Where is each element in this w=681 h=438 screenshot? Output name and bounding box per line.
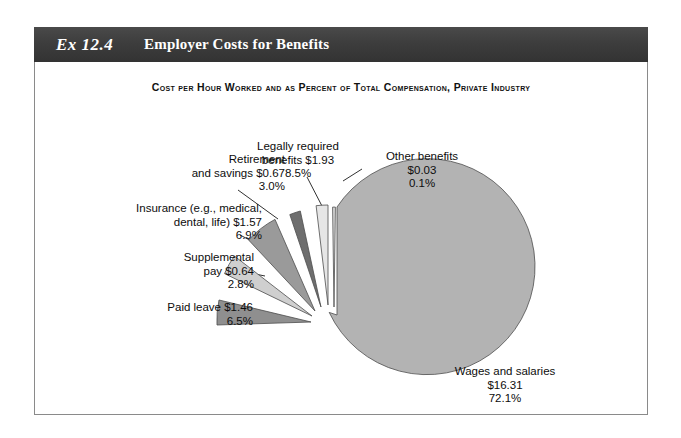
exhibit-body-panel: Cost per Hour Worked and as Percent of T… (34, 62, 648, 415)
callout-legally-required-benefits: Legally required benefits $1.93 8.5% (242, 140, 354, 181)
callout-insurance: Insurance (e.g., medical, dental, life) … (97, 202, 262, 243)
leader-line-legally (307, 177, 323, 208)
pie-slice-wages-and-salaries[interactable] (329, 159, 535, 375)
callout-other-benefits: Other benefits $0.03 0.1% (363, 150, 481, 191)
exhibit-number: Ex 12.4 (56, 35, 113, 55)
exhibit-title: Employer Costs for Benefits (144, 36, 329, 53)
callout-supplemental-pay: Supplemental pay $0.64 2.8% (117, 251, 254, 292)
exhibit-title-bar: Ex 12.4 Employer Costs for Benefits (34, 27, 648, 62)
pie-slice-legally-required-benefits[interactable] (316, 205, 328, 305)
pie-slice-other-benefits[interactable] (333, 207, 336, 307)
callout-wages-and-salaries: Wages and salaries $16.31 72.1% (420, 365, 590, 406)
callout-paid-leave: Paid leave $1.46 6.5% (93, 301, 253, 328)
exhibit-figure: Ex 12.4 Employer Costs for Benefits Cost… (34, 27, 648, 416)
